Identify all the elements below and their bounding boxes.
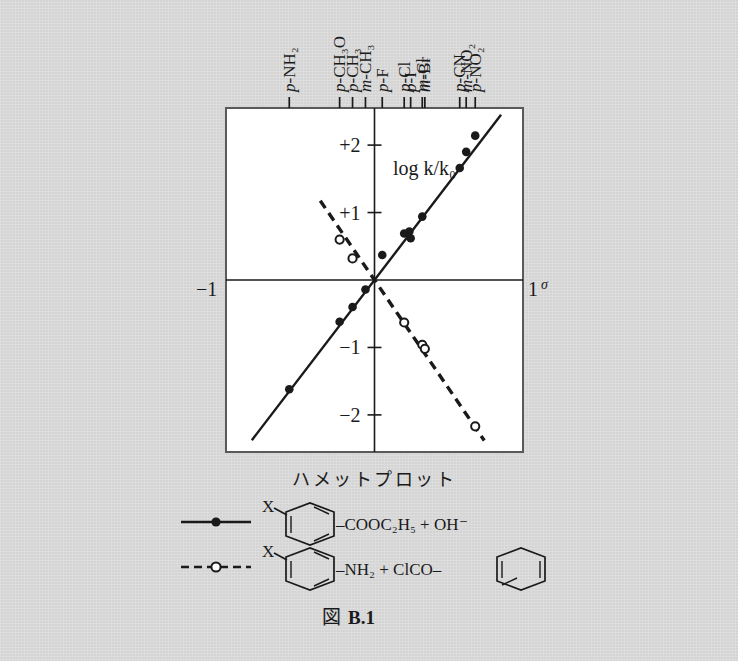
data-point-ester-hydrolysis bbox=[348, 303, 357, 312]
substituent-locant: p bbox=[373, 84, 392, 94]
data-point-ester-hydrolysis bbox=[455, 164, 464, 173]
y-tick-label: −2 bbox=[339, 404, 360, 426]
y-tick-label: −1 bbox=[339, 336, 360, 358]
data-point-amine-acylation bbox=[421, 345, 429, 353]
substituent-label-group: m-Br bbox=[415, 57, 434, 92]
data-point-ester-hydrolysis bbox=[462, 148, 471, 157]
substituent-label: m-Br bbox=[415, 57, 434, 92]
data-point-ester-hydrolysis bbox=[378, 251, 387, 260]
substituent-label: p-F bbox=[373, 68, 392, 93]
legend-2-formula: –NH₂ + ClCO– bbox=[335, 560, 442, 579]
substituent-label-group: p-NH₂ bbox=[280, 47, 299, 93]
legend-filled-circle-marker bbox=[211, 517, 220, 526]
x-axis-left-label: −1 bbox=[196, 278, 217, 300]
data-point-ester-hydrolysis bbox=[471, 131, 480, 140]
substituent-label-group: p-NO₂ bbox=[466, 47, 485, 93]
figure-page: +2+1−1−2 p-NH₂p-CH₃Op-CH₃m-CH₃p-Fp-Clp-I… bbox=[0, 0, 738, 661]
x-axis-right-label: 1 bbox=[528, 278, 538, 300]
substituent-label: p-NO₂ bbox=[466, 47, 485, 93]
legend-1-benzene-ring bbox=[274, 503, 334, 545]
substituent-locant: m bbox=[415, 80, 434, 92]
substituent-group: -Br bbox=[415, 57, 434, 80]
substituent-label-group: p-F bbox=[373, 68, 392, 93]
data-point-ester-hydrolysis bbox=[285, 385, 294, 394]
x-axis-sigma-symbol: σ bbox=[541, 277, 549, 292]
hammett-plot-figure: +2+1−1−2 p-NH₂p-CH₃Op-CH₃m-CH₃p-Fp-Clp-I… bbox=[0, 0, 738, 661]
substituent-label: p-NH₂ bbox=[280, 47, 299, 93]
legend-2-tail-benzene-ring bbox=[497, 548, 545, 590]
data-point-ester-hydrolysis bbox=[406, 234, 415, 243]
data-point-ester-hydrolysis bbox=[418, 212, 427, 221]
data-point-amine-acylation bbox=[336, 235, 344, 243]
y-tick-label: +1 bbox=[339, 202, 360, 224]
legend-2-substituent-x: X bbox=[262, 542, 274, 561]
substituent-locant: p bbox=[280, 84, 299, 94]
substituent-locant: p bbox=[466, 84, 485, 94]
data-point-amine-acylation bbox=[471, 422, 479, 430]
data-point-ester-hydrolysis bbox=[361, 285, 370, 294]
data-point-amine-acylation bbox=[400, 318, 408, 326]
y-axis-label: log k/k₀ bbox=[393, 157, 456, 180]
substituent-group: -NH₂ bbox=[280, 47, 299, 83]
legend-open-circle-marker bbox=[211, 562, 220, 571]
legend-entry-1: X –COOC₂H₅ + OH⁻ bbox=[181, 497, 468, 545]
y-tick-label: +2 bbox=[339, 134, 360, 156]
data-point-amine-acylation bbox=[348, 254, 356, 262]
legend-1-formula: –COOC₂H₅ + OH⁻ bbox=[335, 515, 468, 534]
substituent-group: -F bbox=[373, 68, 392, 83]
substituent-tick-labels: p-NH₂p-CH₃Op-CH₃m-CH₃p-Fp-Clp-Im-Clm-Brp… bbox=[280, 36, 485, 93]
substituent-group: -NO₂ bbox=[466, 47, 485, 83]
data-point-ester-hydrolysis bbox=[335, 318, 344, 327]
caption-number: B.1 bbox=[348, 607, 375, 628]
caption-prefix: 図 bbox=[322, 607, 341, 628]
plot-title: ハメットプロット bbox=[292, 470, 456, 490]
legend-1-substituent-x: X bbox=[262, 497, 274, 516]
legend-2-benzene-ring bbox=[274, 548, 334, 590]
figure-caption: 図 B.1 bbox=[322, 607, 375, 628]
legend-entry-2: X –NH₂ + ClCO– bbox=[181, 542, 545, 590]
